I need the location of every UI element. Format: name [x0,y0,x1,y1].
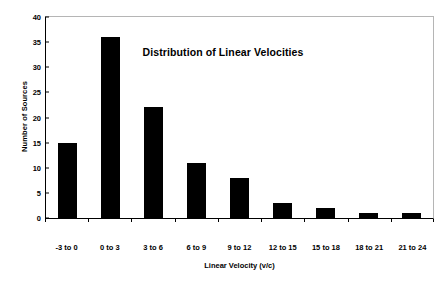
x-axis-tick-mark-cell [261,219,304,223]
x-axis-tick-label: 15 to 18 [304,243,347,252]
bar [402,213,420,218]
x-axis-tick-mark-cell [391,219,434,223]
x-axis-tick-mark [88,219,89,222]
x-axis-tick-mark [218,219,219,222]
x-axis-tick-mark [391,219,392,222]
chart-title: Distribution of Linear Velocities [143,46,304,58]
y-axis-tick-label: 0 [1,214,46,223]
x-axis-tick-mark-cell [348,219,391,223]
bar [230,178,248,218]
y-axis-tick-label: 40 [1,13,46,22]
x-axis-tick-mark [261,219,262,222]
y-axis-tick-label: 25 [1,88,46,97]
x-axis-tick-mark-cell [45,219,88,223]
bar [144,107,162,218]
x-axis-tick-mark-cell [218,219,261,223]
y-axis-tick-label: 5 [1,188,46,197]
bar [58,143,76,218]
bar-cell [390,17,433,218]
x-axis-tick-mark [348,219,349,222]
x-axis-title: Linear Velocity (v/c) [45,261,434,270]
y-axis-tick-label: 35 [1,38,46,47]
x-axis-tick-mark-cell [175,219,218,223]
bar [187,163,205,218]
x-axis-tick-mark [131,219,132,222]
x-axis-tick-mark-cell [304,219,347,223]
x-axis-tick-mark-cell [131,219,174,223]
x-axis-tick-mark [45,219,46,222]
x-axis-tick-mark [175,219,176,222]
x-axis-tick-label: 3 to 6 [131,243,174,252]
x-axis-tick-label: 9 to 12 [218,243,261,252]
y-axis-tick-label: 10 [1,163,46,172]
bar-cell [304,17,347,218]
y-axis-tick-label: 20 [1,113,46,122]
bar [359,213,377,218]
bar-cell [347,17,390,218]
x-axis-tick-mark [304,219,305,222]
x-axis-tick-label: 12 to 15 [261,243,304,252]
bar [101,37,119,218]
bar [316,208,334,218]
bar-cell [46,17,89,218]
x-axis-ticks [45,219,434,223]
x-axis-tick-label: 18 to 21 [348,243,391,252]
y-axis-tick-label: 15 [1,138,46,147]
x-axis-tick-mark [433,219,434,222]
x-axis-tick-label: -3 to 0 [45,243,88,252]
x-axis-tick-label: 21 to 24 [391,243,434,252]
x-axis-tick-mark-cell [88,219,131,223]
bar [273,203,291,218]
x-axis-tick-labels: -3 to 00 to 33 to 66 to 99 to 1212 to 15… [45,243,434,252]
x-axis-tick-label: 6 to 9 [175,243,218,252]
chart-figure: Number of Sources 0510152025303540 Distr… [0,0,446,281]
x-axis-tick-label: 0 to 3 [88,243,131,252]
y-axis-tick-label: 30 [1,63,46,72]
bar-cell [89,17,132,218]
